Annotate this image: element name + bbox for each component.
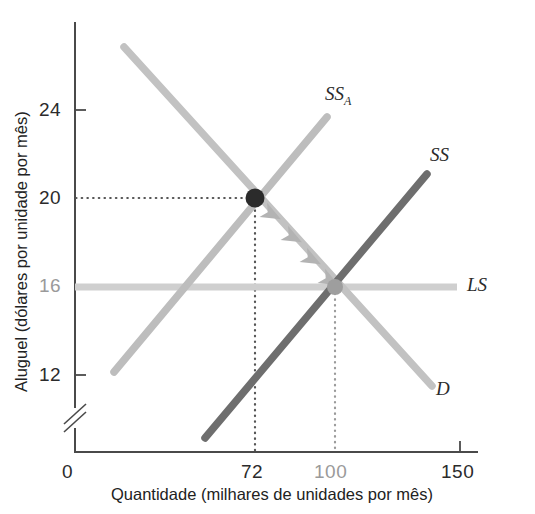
axis-break-marker [64,404,86,432]
x-tick-label-100: 100 [314,462,347,481]
x-tick-label-72: 72 [241,462,263,481]
curve-label-ss-a-subscript: A [344,94,351,108]
curve-ss [205,174,427,438]
y-tick-label-20: 20 [39,188,61,207]
curve-label-ss: SS [430,145,449,164]
supply-demand-chart: 24 20 16 12 0 72 100 150 SSA SS LS D Alu… [0,0,535,514]
x-tick-label-0: 0 [62,462,73,481]
marker-equilibrium-initial [246,189,265,208]
curve-label-ss-a-text: SS [325,83,344,104]
adjustment-arrows [260,203,343,293]
chart-plot-area [0,0,535,514]
axes [64,22,478,453]
x-tick-label-150: 150 [441,462,474,481]
curve-label-ls: LS [467,275,487,294]
y-axis-title: Aluguel (dólares por unidade por mês) [13,111,30,392]
y-tick-label-16: 16 [39,276,61,295]
curve-label-d: D [436,379,450,398]
x-axis-title: Quantidade (milhares de unidades por mês… [111,486,433,503]
marker-equilibrium-final [327,279,343,295]
curve-label-ss-a: SSA [325,84,351,107]
y-tick-label-24: 24 [39,100,61,119]
y-tick-label-12: 12 [39,365,61,384]
